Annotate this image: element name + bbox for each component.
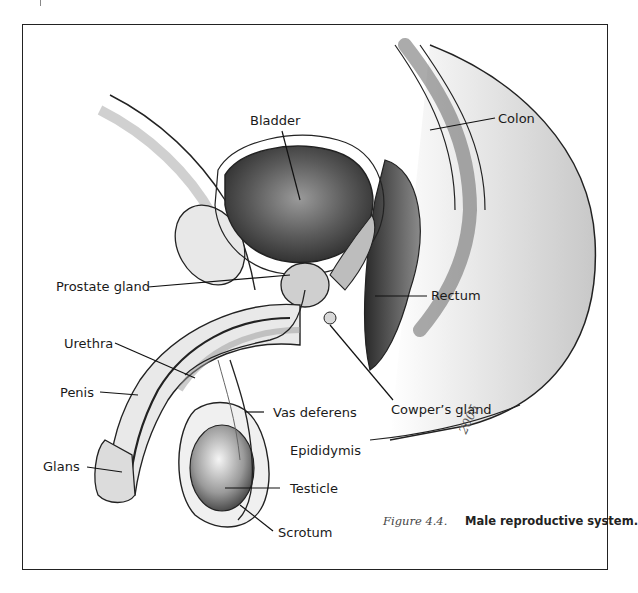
label-epididymis: Epididymis xyxy=(290,444,361,457)
cowpers-gland-shape xyxy=(324,312,336,324)
figure-number: Figure 4.4. xyxy=(383,514,447,528)
label-colon: Colon xyxy=(498,112,535,125)
label-bladder: Bladder xyxy=(250,114,300,127)
figure-title: Male reproductive system. xyxy=(465,514,638,528)
label-prostate-gland: Prostate gland xyxy=(56,280,150,293)
label-scrotum: Scrotum xyxy=(278,526,332,539)
label-vas-deferens: Vas deferens xyxy=(273,406,357,419)
label-testicle: Testicle xyxy=(290,482,338,495)
testicle-shape xyxy=(190,425,254,511)
prostate-shape xyxy=(281,263,329,307)
label-penis: Penis xyxy=(60,386,94,399)
label-urethra: Urethra xyxy=(64,337,113,350)
body-outline xyxy=(390,45,595,440)
label-glans: Glans xyxy=(43,460,80,473)
figure-caption: Figure 4.4. Male reproductive system. xyxy=(383,514,638,528)
label-rectum: Rectum xyxy=(431,289,481,302)
